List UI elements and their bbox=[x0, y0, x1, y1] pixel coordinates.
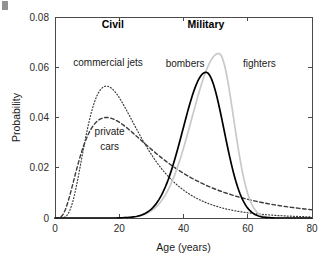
x-tick-label: 60 bbox=[242, 223, 254, 234]
curve-fighters bbox=[55, 53, 312, 218]
axes-group: 00.020.040.060.08020406080Age (years)Pro… bbox=[10, 12, 318, 253]
group-label-civil: Civil bbox=[102, 18, 124, 30]
x-tick-label: 80 bbox=[306, 223, 318, 234]
series-label-fighters: fighters bbox=[243, 58, 276, 69]
y-tick-label: 0.06 bbox=[30, 62, 50, 73]
x-tick-label: 0 bbox=[52, 223, 58, 234]
series-label-bombers: bombers bbox=[166, 58, 205, 69]
annotations-group: CivilMilitarycommercial jetsprivatecarsb… bbox=[73, 18, 275, 151]
series-label-private-cars: private bbox=[95, 126, 125, 137]
y-tick-label: 0.04 bbox=[30, 112, 50, 123]
group-label-military: Military bbox=[188, 18, 225, 30]
probability-age-chart: 00.020.040.060.08020406080Age (years)Pro… bbox=[0, 0, 333, 259]
y-tick-label: 0 bbox=[43, 213, 49, 224]
series-label-private-cars: cars bbox=[100, 141, 119, 152]
y-axis-title: Probability bbox=[10, 92, 22, 142]
x-tick-label: 20 bbox=[114, 223, 126, 234]
curve-commercial-jets bbox=[55, 86, 312, 218]
x-tick-label: 40 bbox=[178, 223, 190, 234]
curves-group bbox=[55, 53, 312, 218]
plot-frame bbox=[55, 17, 312, 218]
y-tick-label: 0.08 bbox=[30, 12, 50, 23]
y-tick-label: 0.02 bbox=[30, 162, 50, 173]
curve-private-cars bbox=[55, 118, 312, 219]
x-axis-title: Age (years) bbox=[156, 241, 210, 253]
series-label-commercial-jets: commercial jets bbox=[73, 57, 142, 68]
